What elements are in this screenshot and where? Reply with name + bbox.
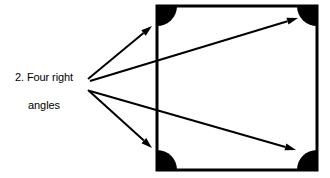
annotation-label-line-2: angles — [4, 98, 84, 112]
figure-container: 2. Four right angles — [0, 0, 330, 178]
annotation-label-line-1: 2. Four right — [4, 70, 84, 84]
annotation-label: 2. Four right angles — [4, 56, 84, 126]
